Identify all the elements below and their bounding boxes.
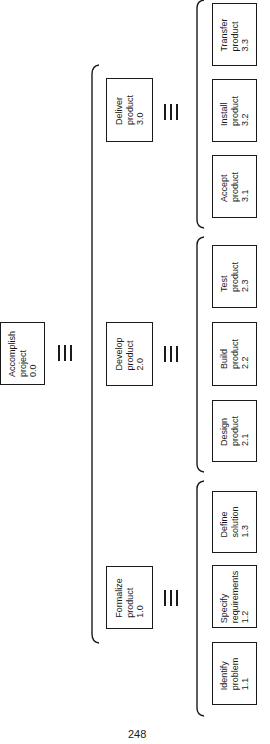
equivalence-symbol-develop	[163, 346, 179, 362]
node-build-product: Build product 2.2	[212, 322, 257, 386]
equivalence-symbol-root	[57, 345, 73, 361]
node-formalize-product: Formalize product 1.0	[106, 566, 153, 629]
node-install-product: Install product 3.2	[212, 79, 257, 142]
node-define-solution: Define solution 1.3	[212, 491, 257, 553]
equivalence-symbol-deliver	[163, 104, 179, 120]
node-accomplish-project: Accomplish project 0.0	[0, 322, 45, 385]
node-test-product: Test product 2.3	[212, 245, 257, 308]
node-develop-product: Develop product 2.0	[106, 322, 153, 386]
node-design-product: Design product 2.1	[212, 400, 257, 462]
node-specify-requirements: Specify requirements 1.2	[212, 565, 257, 628]
node-label: Accomplish project 0.0	[7, 330, 39, 376]
equivalence-symbol-formalize	[163, 590, 179, 606]
node-accept-product: Accept product 3.1	[212, 155, 257, 218]
node-deliver-product: Deliver product 3.0	[106, 78, 153, 142]
node-transfer-product: Transfer product 3.3	[212, 3, 257, 66]
node-identify-problem: Identify problem 1.1	[212, 642, 257, 705]
page-number: 248	[128, 728, 146, 740]
